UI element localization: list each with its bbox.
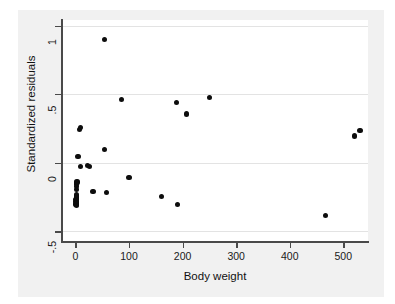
scatter-plot-figure: -.50.51 0100200300400500 Body weight Sta…	[0, 0, 395, 304]
data-point	[75, 154, 80, 159]
data-point	[74, 203, 79, 208]
data-point	[323, 213, 328, 218]
y-axis-title: Standardized residuals	[25, 39, 37, 189]
data-point	[102, 37, 107, 42]
x-tick-label: 400	[270, 250, 310, 262]
x-tick-label: 0	[55, 250, 95, 262]
data-point	[74, 187, 79, 192]
x-tick-label: 200	[163, 250, 203, 262]
data-point	[159, 194, 164, 199]
x-axis-line	[61, 241, 369, 243]
y-tick-label: 0	[46, 162, 58, 196]
data-point	[74, 192, 79, 197]
data-point	[175, 202, 180, 207]
x-tick-label: 300	[216, 250, 256, 262]
data-point	[207, 95, 212, 100]
y-tick-label: 1	[46, 25, 58, 59]
x-tick-mark	[236, 242, 237, 248]
data-point	[90, 189, 95, 194]
data-point	[184, 111, 189, 116]
y-axis-line	[61, 19, 63, 242]
data-point	[352, 133, 357, 138]
data-point	[174, 100, 179, 105]
gridline-y--0p5	[62, 231, 368, 232]
x-tick-label: 100	[109, 250, 149, 262]
data-point	[87, 164, 92, 169]
plot-area	[62, 20, 368, 241]
data-point	[104, 190, 109, 195]
data-point	[74, 179, 79, 184]
data-point	[78, 164, 83, 169]
x-axis-title: Body weight	[62, 270, 368, 282]
x-tick-mark	[183, 242, 184, 248]
gridline-y-0	[62, 163, 368, 164]
data-point	[357, 128, 362, 133]
data-point	[102, 147, 107, 152]
x-tick-mark	[343, 242, 344, 248]
x-tick-mark	[129, 242, 130, 248]
y-tick-label: .5	[46, 93, 58, 127]
gridline-y-0p5	[62, 94, 368, 95]
data-point	[126, 175, 131, 180]
x-tick-mark	[290, 242, 291, 248]
x-tick-mark	[75, 242, 76, 248]
data-point	[78, 125, 83, 130]
x-tick-label: 500	[323, 250, 363, 262]
gridline-y-1	[62, 26, 368, 27]
data-point	[119, 97, 124, 102]
